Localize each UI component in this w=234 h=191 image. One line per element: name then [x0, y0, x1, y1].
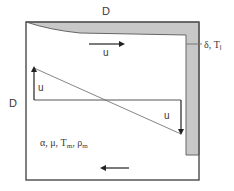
top-velocity-label: u: [103, 48, 109, 58]
cavity-diagram: D D δ, Tl u u u α, μ, Tm, ρm: [0, 0, 234, 191]
diagram-svg: [0, 0, 234, 191]
profile-up-arrow: [31, 66, 37, 100]
fluid-properties-label: α, μ, Tm, ρm: [40, 138, 88, 150]
properties-rho: , ρ: [72, 137, 82, 148]
cavity-outline: [26, 22, 199, 180]
melt-film: [26, 22, 199, 155]
profile-right-velocity-label: u: [164, 111, 170, 121]
bottom-flow-arrow: [100, 165, 129, 171]
film-label-subscript: l: [220, 44, 222, 51]
profile-diagonal: [34, 68, 181, 134]
properties-rho-subscript: m: [82, 142, 87, 150]
properties-alpha-mu-T: α, μ, T: [40, 137, 67, 148]
left-dimension-label: D: [9, 98, 17, 109]
top-dimension-label: D: [102, 6, 110, 17]
film-label: δ, Tl: [204, 40, 221, 51]
profile-down-arrow: [178, 100, 184, 135]
film-label-text: δ, T: [204, 39, 220, 50]
profile-left-velocity-label: u: [38, 83, 44, 93]
